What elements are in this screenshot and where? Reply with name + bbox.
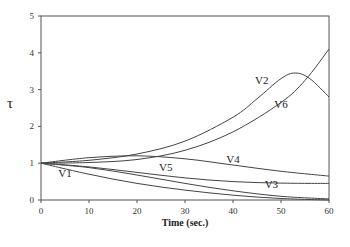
series-line-v1: [41, 163, 329, 200]
x-tick-label: 40: [229, 206, 239, 216]
series-labels: V1V2V3V4V5V6: [58, 74, 288, 190]
y-tick-label: 4: [30, 48, 35, 58]
series-label-v5: V5: [159, 161, 173, 173]
series-label-v2: V2: [255, 74, 268, 86]
series-lines: [41, 49, 329, 200]
x-tick-label: 60: [325, 206, 335, 216]
x-tick-label: 30: [181, 206, 191, 216]
plot-area: 0102030405060012345: [30, 11, 335, 216]
series-label-v6: V6: [274, 98, 288, 110]
x-axis-label: Time (sec.): [162, 217, 208, 229]
y-tick-label: 0: [30, 195, 35, 205]
series-label-v1: V1: [58, 167, 71, 179]
series-label-v4: V4: [226, 153, 240, 165]
x-tick-label: 50: [277, 206, 287, 216]
y-axis-label: τ: [7, 95, 13, 111]
series-line-v3: [41, 163, 329, 199]
x-tick-label: 0: [39, 206, 44, 216]
line-chart: 0102030405060012345 V1V2V3V4V5V6 Time (s…: [0, 0, 350, 247]
x-tick-label: 10: [85, 206, 95, 216]
y-tick-label: 2: [30, 121, 35, 131]
x-tick-label: 20: [133, 206, 143, 216]
series-line-v2: [41, 73, 329, 163]
y-tick-label: 5: [30, 11, 35, 21]
y-tick-label: 1: [30, 158, 35, 168]
y-tick-label: 3: [30, 85, 35, 95]
series-label-v3: V3: [265, 178, 279, 190]
